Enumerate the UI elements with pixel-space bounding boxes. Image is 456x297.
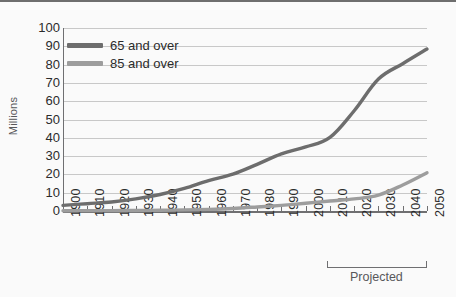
- chart-figure: Millions 0102030405060708090100 19001910…: [0, 0, 456, 297]
- y-tick-label-50: 50: [24, 113, 60, 126]
- gridline-30: [63, 156, 427, 157]
- x-tick-1900: [63, 206, 64, 211]
- gridline-40: [63, 138, 427, 139]
- series-line-65-and-over: [63, 49, 427, 205]
- y-tick-label-100: 100: [24, 21, 60, 34]
- x-tick-label-2030: 2030: [384, 188, 398, 217]
- gridline-60: [63, 101, 427, 102]
- x-tick-label-2020: 2020: [360, 188, 374, 217]
- gridline-20: [63, 174, 427, 175]
- x-tick-label-1920: 1920: [118, 188, 132, 217]
- gridline-50: [63, 120, 427, 121]
- x-tick-label-1940: 1940: [166, 188, 180, 217]
- projected-bracket-left-tick: [327, 261, 328, 268]
- x-tick-2020: [354, 206, 355, 211]
- y-axis-line: [63, 28, 64, 212]
- legend-swatch-65-and-over: [67, 43, 103, 48]
- y-tick-label-20: 20: [24, 167, 60, 180]
- x-tick-label-1910: 1910: [93, 188, 107, 217]
- x-tick-2030: [378, 206, 379, 211]
- y-tick-label-70: 70: [24, 76, 60, 89]
- y-tick-label-0: 0: [24, 204, 60, 217]
- x-tick-1920: [112, 206, 113, 211]
- x-tick-label-2000: 2000: [312, 188, 326, 217]
- y-tick-label-40: 40: [24, 131, 60, 144]
- x-tick-2050: [427, 206, 428, 211]
- x-tick-2000: [306, 206, 307, 211]
- x-tick-label-1930: 1930: [142, 188, 156, 217]
- x-tick-1990: [281, 206, 282, 211]
- x-tick-label-1900: 1900: [69, 188, 83, 217]
- plot-stage: Millions 0102030405060708090100 19001910…: [0, 2, 456, 297]
- gridline-70: [63, 83, 427, 84]
- x-tick-1950: [184, 206, 185, 211]
- projected-bracket-top: [327, 267, 427, 268]
- x-tick-label-1960: 1960: [215, 188, 229, 217]
- gridline-100: [63, 28, 427, 29]
- x-tick-label-2050: 2050: [433, 188, 447, 217]
- y-tick-label-90: 90: [24, 39, 60, 52]
- y-tick-label-80: 80: [24, 58, 60, 71]
- y-axis-tick-labels: 0102030405060708090100: [24, 2, 60, 297]
- y-tick-label-30: 30: [24, 149, 60, 162]
- legend-label-85-and-over: 85 and over: [110, 56, 179, 71]
- x-tick-label-1970: 1970: [239, 188, 253, 217]
- x-tick-2010: [330, 206, 331, 211]
- legend-label-65-and-over: 65 and over: [110, 38, 179, 53]
- x-tick-label-1980: 1980: [263, 188, 277, 217]
- x-tick-label-2010: 2010: [336, 188, 350, 217]
- x-tick-label-1950: 1950: [190, 188, 204, 217]
- y-axis-title: Millions: [7, 81, 19, 151]
- projected-label: Projected: [350, 270, 403, 284]
- x-tick-1930: [136, 206, 137, 211]
- y-tick-label-10: 10: [24, 186, 60, 199]
- x-tick-1910: [87, 206, 88, 211]
- x-tick-2040: [403, 206, 404, 211]
- x-tick-label-2040: 2040: [409, 188, 423, 217]
- x-tick-label-1990: 1990: [287, 188, 301, 217]
- x-tick-1980: [257, 206, 258, 211]
- x-tick-1940: [160, 206, 161, 211]
- y-tick-label-60: 60: [24, 94, 60, 107]
- projected-bracket-right-tick: [426, 261, 427, 268]
- legend-swatch-85-and-over: [67, 61, 103, 66]
- x-tick-1970: [233, 206, 234, 211]
- x-tick-1960: [209, 206, 210, 211]
